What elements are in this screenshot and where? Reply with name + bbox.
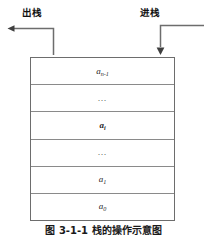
stack-cell-label: ai [99, 121, 105, 130]
stack-cell-one: a1 [31, 167, 174, 194]
pop-arrow [8, 25, 54, 55]
push-label: 进栈 [140, 8, 161, 18]
stack-cell-label: … [98, 94, 108, 103]
stack-cell-label: a0 [99, 202, 107, 211]
stack-cell-top: an-1 [31, 58, 174, 85]
figure-caption: 图 3-1-1 栈的操作示意图 [0, 225, 207, 235]
stack-cell-label: … [98, 148, 108, 157]
stack-cell-ellipsis-upper: … [31, 85, 174, 112]
stack-cell-ellipsis-lower: … [31, 140, 174, 167]
pop-label: 出栈 [22, 8, 43, 18]
push-arrow [157, 26, 204, 56]
stack-operation-diagram: 出栈 进栈 an-1 … ai … a1 a0 [0, 0, 207, 235]
stack-cell-i: ai [31, 112, 174, 139]
stack-cell-label: a1 [99, 175, 107, 184]
stack-cell-label: an-1 [96, 67, 109, 76]
stack-container: an-1 … ai … a1 a0 [30, 57, 175, 221]
stack-cell-bottom: a0 [31, 194, 174, 220]
